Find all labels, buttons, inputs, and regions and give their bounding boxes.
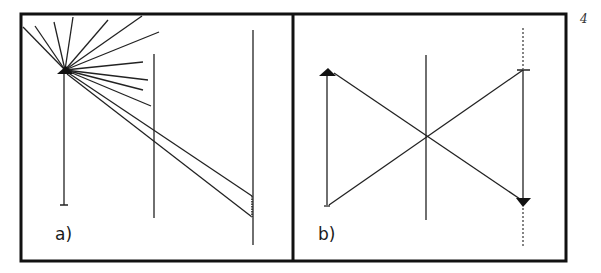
panel-a-label: a) xyxy=(55,224,72,244)
image-arrow-head-icon xyxy=(516,198,531,207)
panel-b-label: b) xyxy=(318,224,335,244)
object-arrow-head-icon xyxy=(319,68,336,76)
page-number: 4 xyxy=(579,12,588,26)
panel-a: a) xyxy=(23,16,253,245)
panel-b: b) xyxy=(318,28,531,248)
beam-lower-edge xyxy=(67,74,252,217)
beam-upper-edge xyxy=(67,72,252,196)
figure-canvas: a) b) 4 xyxy=(0,0,601,273)
